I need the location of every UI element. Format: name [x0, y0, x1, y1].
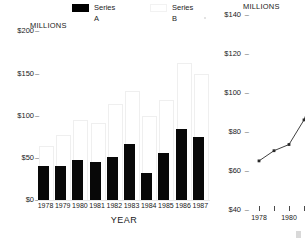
bar-series-a — [55, 166, 66, 201]
bar-group — [72, 16, 89, 201]
line-chart-series-path — [251, 0, 305, 206]
bar-y-tick-label: $0 — [26, 195, 34, 204]
bar-x-tick-label: 1978 — [36, 202, 55, 209]
bar-x-tick-label: 1982 — [105, 202, 124, 209]
legend: Series A Series B — [72, 2, 197, 14]
bar-series-a — [124, 144, 135, 201]
bar-x-tick-label: 1980 — [70, 202, 89, 209]
line-y-tick-label: $120 — [224, 49, 241, 58]
bar-x-tick-label: 1986 — [174, 202, 193, 209]
line-y-tick-dash-icon: – — [245, 205, 249, 214]
bar-y-tick-label: $200 — [17, 26, 34, 35]
bar-series-a — [90, 162, 101, 201]
line-y-tick-label: $100 — [224, 88, 241, 97]
bar-group — [38, 16, 55, 201]
bar-x-tick-label: 1985 — [156, 202, 175, 209]
line-x-tick-mark — [289, 206, 290, 211]
scan-artifact — [296, 231, 301, 238]
bar-y-tick-label: $150 — [17, 69, 34, 78]
bar-y-tick-label: $50 — [21, 153, 34, 162]
bar-series-a — [141, 173, 152, 201]
bar-x-tick-label: 1981 — [88, 202, 107, 209]
bar-group — [90, 16, 107, 201]
bar-chart-plot-area — [38, 16, 208, 201]
line-x-tick-mark — [259, 206, 260, 211]
bar-series-a — [38, 166, 49, 201]
line-chart: MILLIONS $140 – $120 – $100 – $80 – $60 … — [215, 0, 305, 242]
bar-group — [176, 16, 193, 201]
bar-y-tick-label: $100 — [17, 111, 34, 120]
line-chart-plot-area — [251, 0, 305, 212]
line-x-tick-mark — [304, 206, 305, 211]
line-chart-y-axis: $140 – $120 – $100 – $80 – $60 – $40 – — [215, 0, 251, 230]
line-y-tick-dash-icon: – — [245, 10, 249, 19]
bar-x-tick-label: 1979 — [53, 202, 72, 209]
line-y-tick-dash-icon: – — [245, 49, 249, 58]
bar-group — [55, 16, 72, 201]
line-y-tick-dash-icon: – — [245, 166, 249, 175]
scan-artifact — [204, 17, 206, 19]
bar-group — [107, 16, 124, 201]
bar-chart-baseline — [38, 200, 210, 201]
legend-swatch-series-b-icon — [150, 4, 167, 12]
line-chart-data-marker — [258, 160, 261, 163]
bar-series-a — [107, 157, 118, 201]
bar-series-a — [158, 153, 169, 201]
bar-group — [124, 16, 141, 201]
bar-group — [141, 16, 158, 201]
bar-group — [193, 16, 210, 201]
line-chart-data-marker — [273, 149, 276, 152]
bar-group — [158, 16, 175, 201]
bar-series-a — [72, 160, 83, 201]
bar-chart-x-axis: 1978197919801981198219831984198519861987 — [38, 202, 210, 214]
line-chart-x-tick-marks — [251, 206, 305, 214]
line-x-tick-mark — [274, 206, 275, 211]
line-y-tick-dash-icon: – — [245, 127, 249, 136]
legend-swatch-series-a-icon — [72, 4, 89, 12]
line-x-tick-label: 1980 — [278, 214, 300, 221]
bar-x-tick-label: 1984 — [139, 202, 158, 209]
line-y-tick-label: $140 — [224, 10, 241, 19]
line-y-tick-label: $40 — [228, 205, 241, 214]
line-x-tick-label: 1978 — [248, 214, 270, 221]
bar-chart: MILLIONS $200 – $150 – $100 – $50 – $0 –… — [0, 16, 215, 242]
bar-chart-y-axis: $200 – $150 – $100 – $50 – $0 – — [0, 16, 34, 216]
bar-series-a — [193, 137, 204, 201]
bar-x-tick-label: 1987 — [191, 202, 210, 209]
line-chart-data-marker — [288, 143, 291, 146]
bar-x-tick-label: 1983 — [122, 202, 141, 209]
line-chart-data-marker — [303, 119, 305, 122]
chart-canvas: Series A Series B MILLIONS $200 – $150 –… — [0, 0, 305, 242]
line-y-tick-label: $60 — [228, 166, 241, 175]
line-y-tick-dash-icon: – — [245, 88, 249, 97]
bar-series-a — [176, 129, 187, 201]
line-chart-x-axis: 19781980 — [237, 214, 305, 224]
line-y-tick-label: $80 — [228, 127, 241, 136]
bar-chart-x-axis-title: YEAR — [38, 215, 210, 225]
